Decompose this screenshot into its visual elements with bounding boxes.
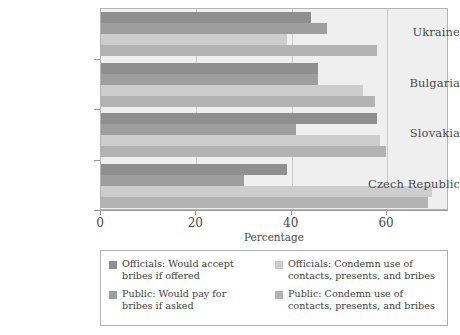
legend-entry[interactable]: Public: Condemn use ofcontacts, presents…	[275, 288, 439, 311]
legend-grid: Officials: Would acceptbribes if offered…	[109, 258, 439, 311]
x-tick-mark-0	[100, 210, 101, 215]
bar	[101, 23, 327, 34]
y-tick-label-bulgaria: Bulgaria	[366, 76, 460, 90]
y-tick-label-ukraine: Ukraine	[366, 25, 460, 39]
bar	[101, 74, 318, 85]
bar	[101, 96, 375, 107]
legend-entry[interactable]: Officials: Would acceptbribes if offered	[109, 258, 269, 281]
x-tick-label-40: 40	[271, 216, 311, 230]
legend-label: Public: Would pay forbribes if asked	[122, 288, 226, 311]
legend-entry[interactable]: Officials: Condemn use ofcontacts, prese…	[275, 258, 439, 281]
legend-entry[interactable]: Public: Would pay forbribes if asked	[109, 288, 269, 311]
legend-label: Officials: Condemn use ofcontacts, prese…	[288, 258, 435, 281]
y-tick-mark	[94, 160, 100, 161]
bar	[101, 197, 428, 208]
y-tick-mark	[94, 59, 100, 60]
x-tick-mark-20	[195, 210, 196, 215]
bar	[101, 45, 377, 56]
bar-chart-figure: UkraineBulgariaSlovakiaCzech Republic 02…	[0, 0, 460, 335]
y-tick-label-slovakia: Slovakia	[366, 126, 460, 140]
legend-swatch-icon	[109, 261, 117, 269]
x-tick-label-20: 20	[175, 216, 215, 230]
bar	[101, 113, 377, 124]
legend-label: Officials: Would acceptbribes if offered	[122, 258, 234, 281]
legend-label: Public: Condemn use ofcontacts, presents…	[288, 288, 435, 311]
bar	[101, 164, 287, 175]
chart-legend: Officials: Would acceptbribes if offered…	[100, 250, 448, 326]
bar	[101, 63, 318, 74]
bar	[101, 34, 287, 45]
legend-swatch-icon	[109, 291, 117, 299]
x-tick-mark-60	[386, 210, 387, 215]
x-tick-mark-40	[291, 210, 292, 215]
bar	[101, 146, 386, 157]
y-tick-mark	[94, 109, 100, 110]
bar	[101, 124, 296, 135]
bar	[101, 12, 311, 23]
x-tick-label-60: 60	[366, 216, 406, 230]
x-tick-label-0: 0	[80, 216, 120, 230]
bar	[101, 85, 363, 96]
bar	[101, 135, 380, 146]
x-axis-line	[100, 210, 448, 211]
y-tick-label-czech-republic: Czech Republic	[366, 177, 460, 191]
legend-swatch-icon	[275, 261, 283, 269]
legend-swatch-icon	[275, 291, 283, 299]
bar	[101, 175, 244, 186]
x-axis-title: Percentage	[100, 231, 448, 243]
